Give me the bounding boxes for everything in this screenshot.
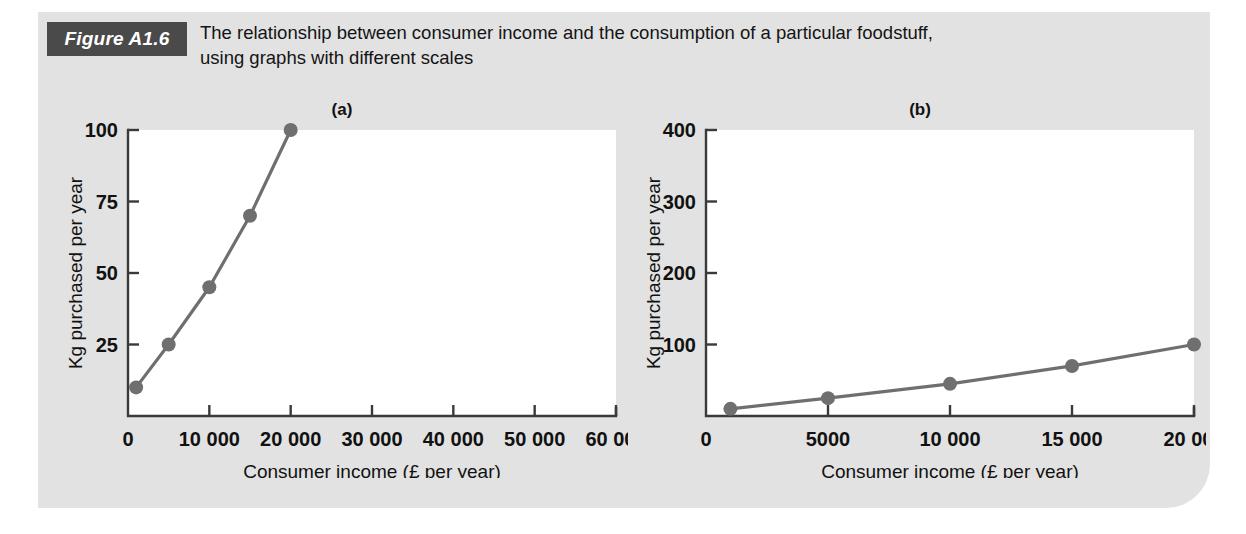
figure-panel: Figure A1.6 The relationship between con… <box>38 12 1210 508</box>
y-tick-label: 200 <box>663 262 696 284</box>
x-tick-label: 0 <box>122 428 133 450</box>
data-point <box>1065 359 1079 373</box>
data-point <box>821 391 835 405</box>
data-point <box>1187 338 1201 352</box>
plot-background <box>706 130 1194 416</box>
y-tick-label: 300 <box>663 191 696 213</box>
chart-b-plot: 1002003004000500010 00015 00020 000Consu… <box>634 118 1206 478</box>
x-tick-label: 40 000 <box>423 428 484 450</box>
plot-background <box>128 130 616 416</box>
x-tick-label: 5000 <box>806 428 851 450</box>
figure-caption-line-2: using graphs with different scales <box>200 45 1160 70</box>
figure-caption: The relationship between consumer income… <box>200 20 1160 70</box>
y-axis-title: Kg purchased per year <box>65 176 86 369</box>
data-point <box>162 338 176 352</box>
data-point <box>943 377 957 391</box>
y-tick-label: 100 <box>85 119 118 141</box>
x-tick-label: 10 000 <box>919 428 980 450</box>
figure-caption-line-1: The relationship between consumer income… <box>200 20 1160 45</box>
data-point <box>243 209 257 223</box>
x-axis-title: Consumer income (£ per year) <box>821 461 1079 478</box>
y-axis-title: Kg purchased per year <box>643 176 664 369</box>
figure-header: Figure A1.6 The relationship between con… <box>38 12 1210 90</box>
chart-a-plot: 255075100010 00020 00030 00040 00050 000… <box>56 118 628 478</box>
y-tick-label: 50 <box>96 262 118 284</box>
figure-number-label: Figure A1.6 <box>65 28 170 50</box>
x-tick-label: 30 000 <box>341 428 402 450</box>
x-tick-label: 15 000 <box>1041 428 1102 450</box>
x-tick-label: 60 000 <box>585 428 628 450</box>
y-tick-label: 400 <box>663 119 696 141</box>
data-point <box>723 402 737 416</box>
chart-b: (b) 1002003004000500010 00015 00020 000C… <box>634 100 1206 482</box>
y-tick-label: 25 <box>96 334 118 356</box>
figure-number-badge: Figure A1.6 <box>47 22 187 56</box>
x-tick-label: 20 000 <box>260 428 321 450</box>
y-tick-label: 75 <box>96 191 118 213</box>
x-tick-label: 0 <box>700 428 711 450</box>
chart-a-title: (a) <box>56 100 628 120</box>
data-point <box>129 380 143 394</box>
y-tick-label: 100 <box>663 334 696 356</box>
data-point <box>202 280 216 294</box>
x-axis-title: Consumer income (£ per year) <box>243 461 501 478</box>
chart-a: (a) 255075100010 00020 00030 00040 00050… <box>56 100 628 482</box>
x-tick-label: 50 000 <box>504 428 565 450</box>
x-tick-label: 10 000 <box>179 428 240 450</box>
x-tick-label: 20 000 <box>1163 428 1206 450</box>
chart-b-title: (b) <box>634 100 1206 120</box>
data-point <box>284 123 298 137</box>
